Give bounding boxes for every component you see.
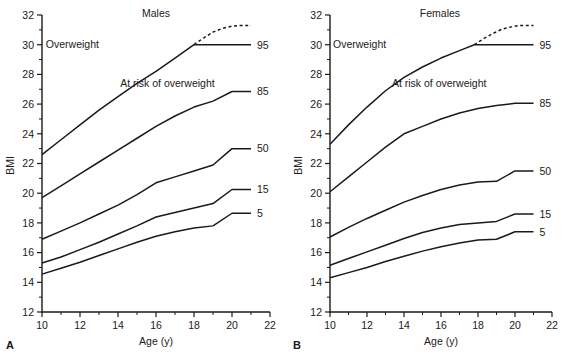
series-line-5 (42, 213, 251, 274)
x-tick-label-18: 18 (188, 319, 200, 331)
y-tick-label-12: 12 (22, 306, 34, 318)
x-tick-label-10: 10 (324, 319, 336, 331)
y-tick-label-12: 12 (310, 306, 322, 318)
x-tick-label-18: 18 (472, 319, 484, 331)
y-tick-label-26: 26 (310, 98, 322, 110)
series-line-85 (42, 91, 251, 197)
y-tick-label-14: 14 (22, 276, 34, 288)
annotation-1: At risk of overweight (392, 77, 487, 89)
x-tick-label-14: 14 (112, 319, 124, 331)
series-label-50: 50 (540, 165, 552, 177)
x-tick-label-20: 20 (509, 319, 521, 331)
y-tick-label-14: 14 (310, 276, 322, 288)
y-tick-label-30: 30 (310, 39, 322, 51)
panel-males: 121416182022242628303210121416182022Age … (4, 7, 276, 351)
y-tick-label-28: 28 (310, 68, 322, 80)
x-axis-title: Age (y) (424, 335, 458, 347)
y-tick-label-22: 22 (22, 157, 34, 169)
series-label-95: 95 (540, 39, 552, 51)
panel-title: Males (142, 7, 170, 19)
axis-lines (42, 15, 270, 312)
panel-title: Females (420, 7, 460, 19)
series-label-5: 5 (540, 226, 546, 238)
bmi-percentile-figure: 121416182022242628303210121416182022Age … (0, 0, 568, 356)
x-tick-label-12: 12 (74, 319, 86, 331)
panel-letter: A (6, 339, 14, 351)
y-tick-label-18: 18 (310, 217, 322, 229)
series-line-50 (330, 171, 534, 237)
y-tick-label-32: 32 (22, 9, 34, 21)
series-line-95-dashed-extension (194, 25, 251, 44)
series-label-85: 85 (540, 97, 552, 109)
y-tick-label-30: 30 (22, 39, 34, 51)
y-tick-label-20: 20 (310, 187, 322, 199)
series-line-95 (330, 45, 534, 144)
series-label-15: 15 (540, 208, 552, 220)
panel-females: 121416182022242628303210121416182022Age … (292, 7, 558, 351)
y-tick-label-24: 24 (310, 128, 322, 140)
x-axis-title: Age (y) (139, 335, 173, 347)
annotation-1: At risk of overweight (120, 77, 215, 89)
y-tick-label-18: 18 (22, 217, 34, 229)
y-tick-label-20: 20 (22, 187, 34, 199)
x-tick-label-16: 16 (150, 319, 162, 331)
x-tick-label-22: 22 (546, 319, 558, 331)
series-label-85: 85 (257, 85, 269, 97)
x-tick-label-12: 12 (361, 319, 373, 331)
annotation-0: Overweight (46, 38, 99, 50)
y-tick-label-26: 26 (22, 98, 34, 110)
series-line-50 (42, 149, 251, 240)
series-label-15: 15 (257, 183, 269, 195)
y-axis-title: BMI (4, 156, 16, 175)
series-line-95-dashed-extension (474, 25, 533, 44)
x-tick-label-20: 20 (226, 319, 238, 331)
series-line-95 (42, 45, 251, 155)
y-axis-title: BMI (292, 156, 304, 175)
y-tick-label-32: 32 (310, 9, 322, 21)
x-tick-label-22: 22 (264, 319, 276, 331)
y-tick-label-16: 16 (22, 246, 34, 258)
x-tick-label-16: 16 (435, 319, 447, 331)
figure-svg: 121416182022242628303210121416182022Age … (0, 0, 568, 356)
x-tick-label-14: 14 (398, 319, 410, 331)
annotation-0: Overweight (333, 38, 386, 50)
series-label-50: 50 (257, 142, 269, 154)
y-tick-label-28: 28 (22, 68, 34, 80)
y-tick-label-24: 24 (22, 128, 34, 140)
y-tick-label-22: 22 (310, 157, 322, 169)
panel-letter: B (293, 339, 301, 351)
series-label-5: 5 (257, 207, 263, 219)
series-label-95: 95 (257, 39, 269, 51)
y-tick-label-16: 16 (310, 246, 322, 258)
x-tick-label-10: 10 (36, 319, 48, 331)
axis-lines (330, 15, 552, 312)
